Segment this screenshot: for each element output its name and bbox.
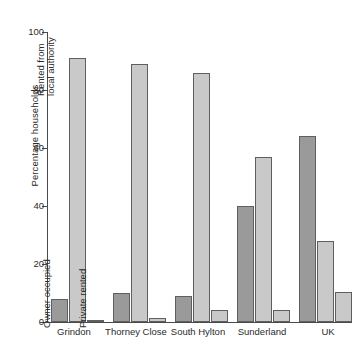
bar <box>211 310 228 322</box>
bar <box>273 310 290 322</box>
series-annotation-rented-local-authority: Rented from local authority <box>36 22 56 96</box>
bar-group <box>299 32 353 322</box>
bar <box>299 136 316 322</box>
x-category-label-uk: UK <box>288 326 354 337</box>
bar <box>51 299 68 322</box>
bar <box>317 241 334 322</box>
bar-group <box>113 32 167 322</box>
series-annotation-line-2: local authority <box>45 37 56 96</box>
bar <box>335 292 352 322</box>
bar <box>149 318 166 322</box>
series-annotation-owner-occupied: Owner occupied <box>42 259 52 328</box>
plot-area <box>48 32 352 322</box>
bar-group <box>175 32 229 322</box>
bar-group <box>237 32 291 322</box>
bar <box>193 73 210 322</box>
bar <box>175 296 192 322</box>
bar-chart: Percentage households 0 20 40 60 80 100 … <box>0 0 354 348</box>
bar <box>131 64 148 322</box>
y-tick-label-40: 40 <box>4 201 44 211</box>
bar <box>237 206 254 322</box>
y-tick-label-20: 20 <box>4 259 44 269</box>
y-tick-label-60: 60 <box>4 143 44 153</box>
bar <box>255 157 272 322</box>
series-annotation-private-rented: Private rented <box>78 269 88 328</box>
bar <box>113 293 130 322</box>
bar <box>87 320 104 322</box>
